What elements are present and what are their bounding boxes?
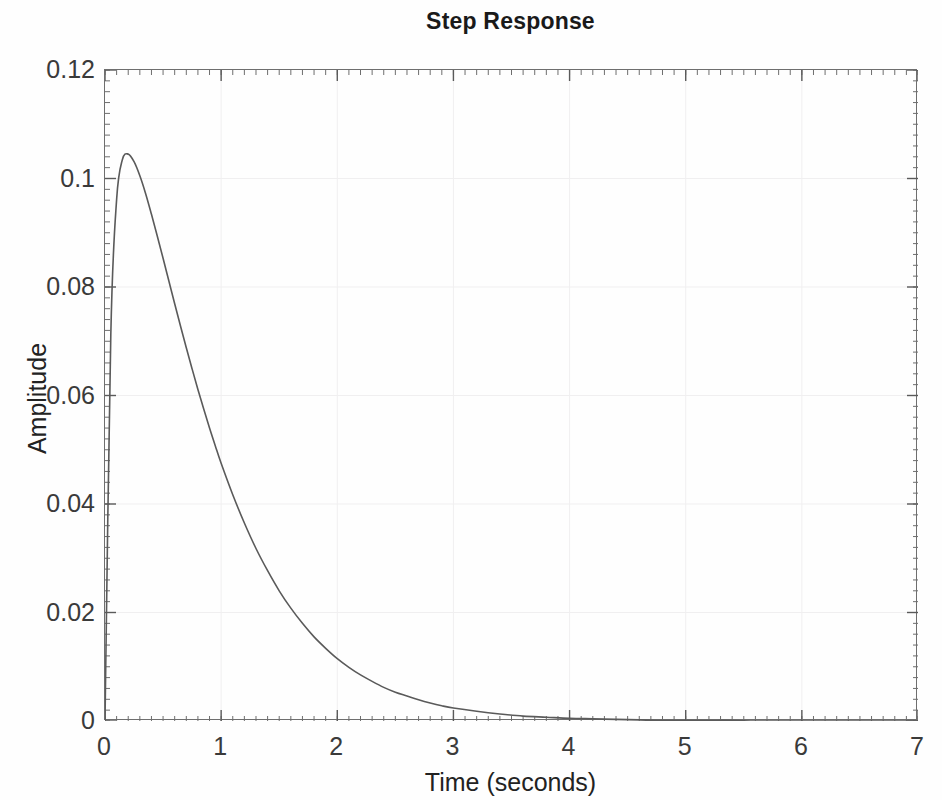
x-tick-label: 0 <box>74 732 134 761</box>
x-axis-tick-labels: 01234567 <box>0 732 942 766</box>
figure-canvas: Step Response 00.020.040.060.080.10.12 0… <box>0 0 942 800</box>
x-tick-label: 3 <box>422 732 482 761</box>
x-tick-label: 6 <box>771 732 831 761</box>
y-tick-label: 0 <box>9 706 95 735</box>
chart-title: Step Response <box>104 8 917 35</box>
plot-svg <box>105 70 918 721</box>
x-tick-label: 4 <box>539 732 599 761</box>
x-axis-label: Time (seconds) <box>104 768 917 797</box>
step-response-curve <box>105 154 918 721</box>
plot-area <box>104 69 917 720</box>
y-tick-label: 0.1 <box>9 163 95 192</box>
y-tick-label: 0.02 <box>9 597 95 626</box>
x-tick-label: 1 <box>190 732 250 761</box>
gridlines <box>105 70 918 721</box>
y-axis-label: Amplitude <box>23 299 52 499</box>
y-tick-label: 0.08 <box>9 272 95 301</box>
x-tick-label: 7 <box>887 732 942 761</box>
x-tick-label: 5 <box>655 732 715 761</box>
x-tick-label: 2 <box>306 732 366 761</box>
y-tick-label: 0.12 <box>9 55 95 84</box>
